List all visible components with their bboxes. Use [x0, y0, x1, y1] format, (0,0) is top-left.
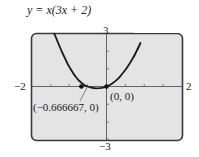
- graph-window: [0, 0, 199, 157]
- x-min-label: −2: [14, 81, 26, 92]
- point-root-left: [79, 84, 84, 89]
- point-origin: [104, 84, 109, 89]
- point-left-label: (−0.666667, 0): [33, 102, 99, 113]
- x-max-label: 2: [186, 81, 192, 92]
- y-max-label: 3: [103, 25, 109, 36]
- y-min-label: −3: [99, 141, 111, 152]
- point-origin-label: (0, 0): [110, 91, 134, 102]
